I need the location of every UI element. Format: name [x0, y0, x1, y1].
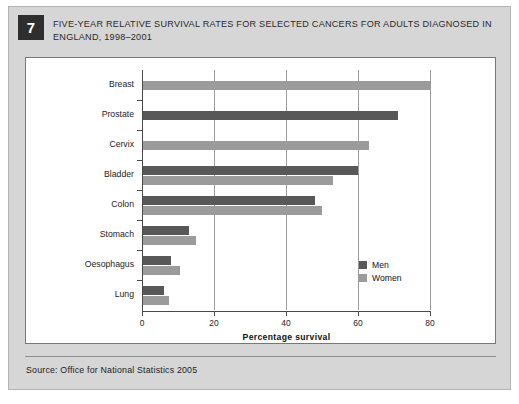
y-axis-tick — [137, 100, 142, 101]
bar-stomach-women — [143, 236, 196, 245]
x-axis-tick — [142, 311, 143, 316]
source-note: Source: Office for National Statistics 2… — [26, 365, 197, 375]
x-axis-tick-label: 60 — [338, 318, 378, 328]
x-axis-title: Percentage survival — [142, 332, 431, 342]
x-axis-tick — [358, 311, 359, 316]
bar-oesophagus-men — [143, 256, 171, 265]
legend-item-men: Men — [359, 258, 401, 271]
category-label-breast: Breast — [46, 79, 134, 89]
category-label-prostate: Prostate — [46, 109, 134, 119]
figure-container: 7 FIVE-YEAR RELATIVE SURVIVAL RATES FOR … — [8, 6, 511, 390]
figure-header: 7 FIVE-YEAR RELATIVE SURVIVAL RATES FOR … — [9, 7, 512, 55]
y-axis-tick — [137, 130, 142, 131]
bar-lung-men — [143, 286, 164, 295]
bar-breast-women — [143, 81, 430, 90]
x-axis-tick-label: 40 — [266, 318, 306, 328]
chart-legend: MenWomen — [359, 258, 401, 284]
x-axis-tick — [286, 311, 287, 316]
bar-prostate-men — [143, 111, 398, 120]
legend-swatch-men — [359, 261, 367, 269]
gridline — [430, 70, 431, 310]
y-axis-tick — [137, 190, 142, 191]
y-axis-tick — [137, 160, 142, 161]
figure-title: FIVE-YEAR RELATIVE SURVIVAL RATES FOR SE… — [53, 18, 503, 43]
x-axis-tick-label: 20 — [194, 318, 234, 328]
x-axis-tick-label: 80 — [410, 318, 450, 328]
x-axis-tick-label: 0 — [122, 318, 162, 328]
y-axis-tick — [137, 280, 142, 281]
gridline — [286, 70, 287, 310]
category-label-bladder: Bladder — [46, 169, 134, 179]
y-axis-tick — [137, 220, 142, 221]
x-axis-tick — [214, 311, 215, 316]
bar-lung-women — [143, 296, 169, 305]
category-label-oesophagus: Oesophagus — [46, 259, 134, 269]
bar-oesophagus-women — [143, 266, 180, 275]
bar-colon-men — [143, 196, 315, 205]
y-axis-tick — [137, 250, 142, 251]
chart-panel: 020406080 BreastProstateCervixBladderCol… — [25, 57, 496, 344]
figure-number-badge: 7 — [18, 15, 44, 40]
legend-swatch-women — [359, 274, 367, 282]
category-label-cervix: Cervix — [46, 139, 134, 149]
legend-label: Men — [372, 260, 389, 270]
x-axis-tick — [430, 311, 431, 316]
bar-colon-women — [143, 206, 322, 215]
bar-bladder-men — [143, 166, 358, 175]
y-axis-line — [142, 70, 143, 312]
bar-stomach-men — [143, 226, 189, 235]
legend-item-women: Women — [359, 271, 401, 284]
gridline — [214, 70, 215, 310]
bar-bladder-women — [143, 176, 333, 185]
category-label-colon: Colon — [46, 199, 134, 209]
bar-cervix-women — [143, 141, 369, 150]
legend-label: Women — [372, 273, 401, 283]
category-label-lung: Lung — [46, 289, 134, 299]
category-label-stomach: Stomach — [46, 229, 134, 239]
footer-divider — [25, 356, 496, 357]
